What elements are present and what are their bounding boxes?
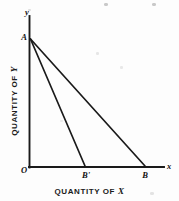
figure-container: y x A O B' B QUANTITY OF X QUANTITY OF Y: [0, 0, 179, 201]
y-axis-tip-label: y: [24, 7, 29, 17]
y-axis-caption-variable: Y: [9, 66, 19, 72]
point-label-a: A: [20, 32, 27, 42]
origin-label: O: [21, 165, 27, 175]
x-axis-caption: QUANTITY OF X: [0, 186, 179, 196]
budget-line-ab-prime: [31, 39, 86, 166]
x-axis-caption-variable: X: [118, 186, 125, 196]
point-label-b-prime: B': [81, 170, 91, 180]
y-axis-caption-prefix: QUANTITY OF: [10, 72, 19, 136]
point-label-b: B: [141, 170, 148, 180]
x-axis-caption-prefix: QUANTITY OF: [54, 187, 118, 196]
y-axis-caption: QUANTITY OF Y: [9, 41, 19, 161]
budget-line-ab: [31, 39, 146, 166]
x-axis-tip-label: x: [166, 161, 172, 171]
budget-line-chart: y x A O B' B: [0, 0, 179, 201]
